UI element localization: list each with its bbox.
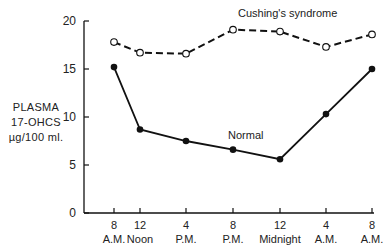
axes bbox=[84, 21, 374, 213]
data-point-filled bbox=[277, 156, 284, 163]
data-point-open bbox=[230, 26, 237, 33]
y-tick-label: 0 bbox=[69, 206, 76, 220]
series-normal bbox=[111, 64, 376, 163]
data-point-filled bbox=[183, 138, 190, 145]
data-point-open bbox=[369, 31, 376, 38]
series-cushings-syndrome bbox=[111, 26, 376, 57]
data-point-open bbox=[323, 44, 330, 51]
y-axis-label-line: PLASMA bbox=[13, 101, 60, 113]
x-tick-label-top: 4 bbox=[183, 219, 189, 231]
y-axis-label-line: µg/100 ml. bbox=[9, 131, 64, 143]
series-group bbox=[111, 26, 376, 162]
y-tick-label: 10 bbox=[63, 110, 77, 124]
x-tick-label-bottom: P.M. bbox=[175, 233, 196, 245]
data-point-filled bbox=[111, 64, 118, 71]
series-line bbox=[114, 30, 372, 54]
data-point-filled bbox=[323, 111, 330, 118]
y-axis-label-line: 17-OHCS bbox=[11, 116, 61, 128]
x-tick-label-top: 12 bbox=[134, 219, 146, 231]
y-tick-label: 5 bbox=[69, 158, 76, 172]
series-label: Cushing's syndrome bbox=[238, 7, 337, 19]
y-axis-ticks: 05101520 bbox=[63, 14, 89, 220]
x-tick-label-bottom: A.M. bbox=[315, 233, 338, 245]
x-tick-label-bottom: Midnight bbox=[259, 233, 301, 245]
x-tick-label-top: 4 bbox=[323, 219, 329, 231]
x-tick-label-bottom: Noon bbox=[127, 233, 153, 245]
x-tick-label-bottom: A.M. bbox=[103, 233, 126, 245]
chart: PLASMA17-OHCSµg/100 ml. 05101520 8A.M.12… bbox=[0, 0, 386, 248]
data-point-open bbox=[111, 39, 118, 46]
x-tick-label-bottom: P.M. bbox=[222, 233, 243, 245]
x-tick-label-top: 12 bbox=[274, 219, 286, 231]
series-labels: Cushing's syndromeNormal bbox=[228, 7, 337, 141]
data-point-filled bbox=[230, 146, 237, 153]
y-axis-label: PLASMA17-OHCSµg/100 ml. bbox=[9, 101, 64, 143]
data-point-open bbox=[137, 49, 144, 56]
x-tick-label-bottom: A.M. bbox=[361, 233, 384, 245]
data-point-filled bbox=[137, 126, 144, 133]
series-label: Normal bbox=[228, 129, 263, 141]
data-point-filled bbox=[369, 66, 376, 73]
y-tick-label: 15 bbox=[63, 62, 77, 76]
data-point-open bbox=[277, 28, 284, 35]
data-point-open bbox=[183, 50, 190, 57]
y-tick-label: 20 bbox=[63, 14, 77, 28]
x-tick-label-top: 8 bbox=[230, 219, 236, 231]
x-tick-label-top: 8 bbox=[111, 219, 117, 231]
x-tick-label-top: 8 bbox=[369, 219, 375, 231]
series-line bbox=[114, 67, 372, 159]
